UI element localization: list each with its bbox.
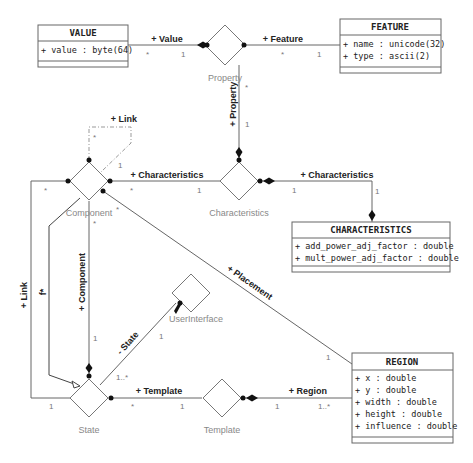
ownership-dot-icon	[237, 158, 242, 163]
role-state: - State	[115, 329, 141, 356]
property-composition-icon	[236, 147, 243, 158]
component-composition-icon	[86, 363, 93, 373]
role-characteristics-left: + Characteristics	[131, 170, 204, 180]
component-association-diamond[interactable]	[70, 162, 108, 200]
role-link-self: + Link	[111, 114, 138, 124]
multiplicity: 1	[197, 186, 202, 195]
class-region[interactable]: REGION + x : double + y : double + width…	[352, 353, 457, 443]
multiplicity: *	[146, 50, 149, 59]
association-name-property: Property	[208, 73, 243, 83]
role-placement: + Placement	[225, 263, 274, 301]
class-title: FEATURE	[371, 22, 409, 32]
class-attribute: + value : byte(64)	[41, 45, 133, 55]
ownership-dot-icon	[66, 179, 71, 184]
multiplicity: *	[130, 186, 133, 195]
role-characteristics-right: + Characteristics	[301, 170, 374, 180]
multiplicity: 1	[275, 402, 280, 411]
multiplicity: 1	[180, 402, 185, 411]
template-composition-icon	[246, 395, 258, 402]
role-f-star: f*	[38, 288, 48, 295]
class-attribute: + type : ascii(2)	[343, 51, 430, 61]
role-feature: + Feature	[263, 34, 303, 44]
arrow-head-icon	[72, 381, 80, 388]
class-attribute: + add_power_adj_factor : double	[295, 241, 454, 251]
multiplicity: 1	[292, 186, 297, 195]
characteristics-composition-icon	[263, 178, 275, 185]
multiplicity: 1	[118, 161, 123, 170]
multiplicity: *	[44, 186, 47, 195]
multiplicity: 1	[375, 187, 380, 196]
association-name-template: Template	[204, 425, 241, 435]
class-attribute: + height : double	[355, 409, 442, 419]
ownership-dot-icon	[87, 374, 92, 379]
class-attribute: + y : double	[355, 385, 416, 395]
characteristics-class-line	[258, 181, 372, 222]
multiplicity: 1	[181, 50, 186, 59]
role-component: + Component	[77, 253, 87, 311]
ownership-dot-icon	[101, 189, 106, 194]
role-property: + Property	[228, 82, 238, 127]
multiplicity: 1	[245, 120, 250, 129]
ownership-dot-icon	[108, 179, 113, 184]
class-characteristics[interactable]: CHARACTERISTICS + add_power_adj_factor :…	[292, 222, 459, 272]
multiplicity: 1	[49, 402, 54, 411]
property-association-diamond[interactable]	[205, 25, 245, 65]
state-userinterface-line	[100, 303, 176, 385]
ownership-dot-icon	[109, 396, 114, 401]
class-attribute: + mult_power_adj_factor : double	[295, 253, 459, 263]
ownership-dot-icon	[242, 43, 247, 48]
role-value: + Value	[151, 34, 182, 44]
multiplicity: *	[131, 402, 134, 411]
multiplicity: 1	[93, 334, 98, 343]
role-template: + Template	[136, 386, 183, 396]
class-value[interactable]: VALUE + value : byte(64)	[38, 25, 133, 67]
multiplicity: *	[116, 205, 119, 214]
class-attribute: + x : double	[355, 373, 416, 383]
ownership-dot-icon	[178, 301, 183, 306]
association-name-characteristics: Characteristics	[209, 208, 269, 218]
multiplicity: *	[93, 219, 96, 228]
association-name-component: Component	[66, 208, 113, 218]
class-feature[interactable]: FEATURE + name : unicode(32) + type : as…	[340, 19, 445, 73]
ownership-dot-icon	[205, 43, 210, 48]
f-star-line	[49, 198, 80, 385]
multiplicity: 1	[326, 353, 331, 362]
userinterface-composition-icon	[174, 304, 181, 314]
multiplicity: *	[281, 50, 284, 59]
association-name-userinterface: UserInterface	[169, 314, 223, 324]
role-link: + Link	[19, 281, 29, 308]
multiplicity: *	[93, 133, 96, 142]
multiplicity: 1	[317, 50, 322, 59]
ownership-dot-icon	[87, 158, 92, 163]
characteristics-class-composition-icon	[369, 210, 376, 221]
class-title: CHARACTERISTICS	[330, 225, 411, 235]
class-title: VALUE	[69, 28, 96, 38]
role-region: + Region	[289, 386, 327, 396]
ownership-dot-icon	[258, 179, 263, 184]
multiplicity: 1	[159, 332, 164, 341]
characteristics-association-diamond[interactable]	[220, 162, 258, 200]
uml-diagram: VALUE + value : byte(64) FEATURE + name …	[0, 0, 473, 463]
class-attribute: + influence : double	[355, 421, 457, 431]
multiplicity: *	[245, 83, 248, 92]
ownership-dot-icon	[241, 396, 246, 401]
association-name-state: State	[78, 425, 99, 435]
multiplicity: 1..*	[318, 402, 330, 411]
class-title: REGION	[386, 357, 419, 367]
class-attribute: + name : unicode(32)	[343, 39, 445, 49]
class-attribute: + width : double	[355, 397, 437, 407]
multiplicity: 1..*	[116, 373, 128, 382]
template-association-diamond[interactable]	[203, 379, 241, 417]
